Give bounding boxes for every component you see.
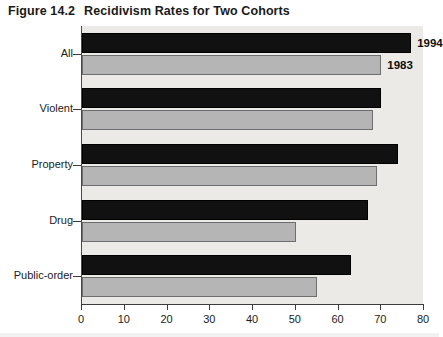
bar-all-1994: [82, 33, 411, 53]
y-axis-category-labels: AllViolentPropertyDrugPublic-order: [0, 26, 73, 304]
x-tick-label-40: 40: [246, 313, 258, 325]
x-tick: [167, 304, 168, 310]
bar-drug-1994: [82, 200, 368, 220]
x-tick: [295, 304, 296, 310]
x-tick-label-50: 50: [289, 313, 301, 325]
category-tick: [73, 276, 81, 277]
page-edge-artifact: [0, 333, 439, 337]
bar-all-1983: [82, 55, 381, 75]
category-label-property: Property: [31, 158, 73, 170]
category-tick: [73, 221, 81, 222]
x-tick: [209, 304, 210, 310]
x-tick-label-0: 0: [78, 313, 84, 325]
category-label-violent: Violent: [40, 102, 73, 114]
bar-property-1983: [82, 166, 377, 186]
chart-plot-area: 19941983: [81, 26, 423, 304]
x-tick-label-30: 30: [203, 313, 215, 325]
bar-group: [82, 255, 423, 297]
bar-violent-1994: [82, 88, 381, 108]
x-tick-label-70: 70: [374, 313, 386, 325]
category-tick: [73, 54, 81, 55]
x-tick-label-80: 80: [417, 313, 429, 325]
category-label-drug: Drug: [49, 214, 73, 226]
x-tick: [423, 304, 424, 310]
x-tick: [252, 304, 253, 310]
x-tick: [124, 304, 125, 310]
bar-public-order-1994: [82, 255, 351, 275]
x-tick-label-60: 60: [331, 313, 343, 325]
bars-container: 19941983: [82, 26, 423, 304]
bar-group: [82, 144, 423, 186]
x-tick: [380, 304, 381, 310]
bar-public-order-1983: [82, 277, 317, 297]
figure-title: Figure 14.2Recidivism Rates for Two Coho…: [8, 4, 290, 18]
x-tick-label-10: 10: [118, 313, 130, 325]
category-label-all: All: [61, 47, 73, 59]
category-tick: [73, 165, 81, 166]
figure-number: Figure 14.2: [8, 4, 75, 18]
bar-drug-1983: [82, 222, 296, 242]
category-label-public-order: Public-order: [14, 269, 73, 281]
bar-property-1994: [82, 144, 398, 164]
x-tick: [81, 304, 82, 310]
bar-group: [82, 33, 423, 75]
bar-group: [82, 200, 423, 242]
figure-title-text: Recidivism Rates for Two Cohorts: [84, 4, 290, 18]
x-tick: [338, 304, 339, 310]
x-tick-label-20: 20: [160, 313, 172, 325]
bar-group: [82, 88, 423, 130]
category-tick: [73, 109, 81, 110]
bar-violent-1983: [82, 110, 373, 130]
